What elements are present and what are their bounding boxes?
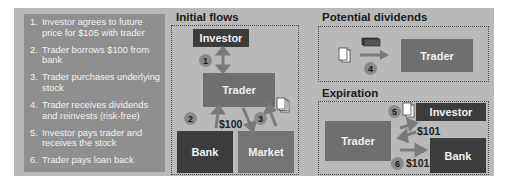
loan-repayment-amount: $101 bbox=[406, 157, 429, 169]
step-badge-6: 6 bbox=[391, 157, 404, 170]
investor-payment-amount: $101 bbox=[417, 125, 440, 137]
step-badge-5: 5 bbox=[388, 105, 401, 118]
stock-document-icon bbox=[403, 103, 415, 119]
